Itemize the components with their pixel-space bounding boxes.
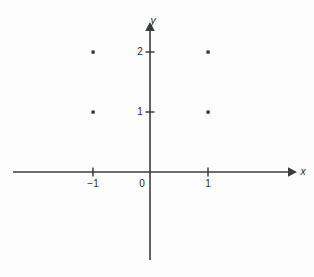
- data-point: [207, 111, 210, 114]
- x-tick-label-1: 1: [205, 179, 211, 189]
- x-tick-label-minus-1: −1: [87, 179, 98, 189]
- x-axis-arrow-icon: [288, 167, 297, 177]
- plot-canvas: [0, 0, 314, 277]
- y-tick-label-2: 2: [137, 47, 143, 57]
- coordinate-plane-figure: y x −1 0 1 1 2: [0, 0, 314, 277]
- data-point: [92, 111, 95, 114]
- y-tick-label-1: 1: [137, 107, 143, 117]
- data-point: [207, 51, 210, 54]
- y-axis-label: y: [150, 15, 155, 26]
- data-point: [92, 51, 95, 54]
- origin-label: 0: [139, 179, 145, 189]
- x-axis-label: x: [300, 166, 305, 177]
